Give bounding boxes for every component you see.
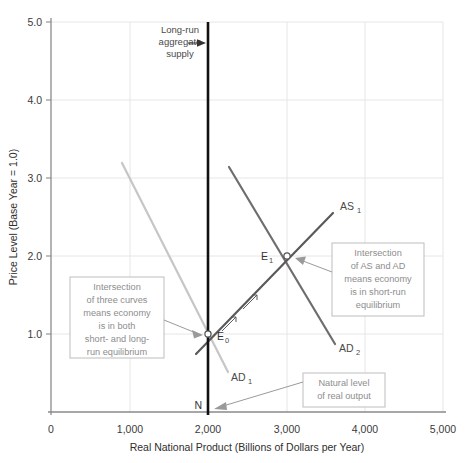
natural-output-marker-label: N (194, 399, 202, 411)
y-tick-label: 4.0 (27, 94, 42, 106)
y-axis-title: Price Level (Base Year = 1.0) (7, 149, 19, 285)
lras-annotation-arrowhead (197, 39, 206, 46)
lras-annotation-line: aggregate (159, 36, 202, 47)
short-run-callout: Intersection of AS and AD means economy … (295, 243, 424, 316)
ad1-label: AD (231, 371, 246, 383)
callout-line: Intersection (93, 282, 141, 292)
callout-line: means economy (344, 274, 412, 284)
callout-line: is in short-run (350, 287, 406, 297)
x-tick-label: 2,000 (195, 423, 221, 435)
callout-line: of real output (317, 391, 371, 401)
x-tick-label: 0 (48, 423, 54, 435)
three-curves-callout: Intersection of three curves means econo… (70, 277, 203, 358)
ad2-label: AD (339, 342, 354, 354)
e1-label: E (261, 250, 268, 262)
callout-line: Natural level (318, 378, 369, 388)
natural-level-callout-arrow-line (223, 382, 303, 406)
y-tick-label: 2.0 (27, 250, 42, 262)
natural-level-callout-arrowhead (214, 402, 227, 410)
aggregate-supply-demand-chart: 5.0 4.0 3.0 2.0 1.0 0 1,000 2,000 3,000 … (0, 0, 469, 463)
as1-label: AS (340, 200, 354, 212)
e0-label-subscript: 0 (225, 336, 229, 345)
callout-line: Intersection (354, 248, 402, 258)
x-axis-title: Real National Product (Billions of Dolla… (130, 441, 365, 453)
x-tick-label: 3,000 (274, 423, 300, 435)
callout-line: short- and long- (85, 334, 149, 344)
y-tick-label: 5.0 (27, 16, 42, 28)
ad2-label-subscript: 2 (356, 348, 360, 357)
lras-annotation-line: Long-run (161, 24, 199, 35)
chart-canvas: 5.0 4.0 3.0 2.0 1.0 0 1,000 2,000 3,000 … (0, 0, 469, 463)
short-run-callout-arrowhead (295, 257, 306, 266)
callout-line: means economy (83, 308, 151, 318)
x-tick-label: 5,000 (430, 423, 456, 435)
callout-line: is in both (99, 321, 136, 331)
as1-label-subscript: 1 (357, 206, 361, 215)
lras-annotation: Long-run aggregate supply (159, 24, 206, 59)
callout-line: of AS and AD (351, 261, 406, 271)
callout-line: run equilibrium (87, 347, 148, 357)
x-tick-label: 1,000 (117, 423, 143, 435)
lras-annotation-line: supply (166, 48, 194, 59)
x-axis-tick-labels: 0 1,000 2,000 3,000 4,000 5,000 (48, 423, 456, 435)
callout-line: equilibrium (356, 300, 401, 310)
x-tick-label: 4,000 (352, 423, 378, 435)
three-curves-callout-arrow-line (164, 320, 196, 333)
ad1-label-subscript: 1 (248, 377, 252, 386)
short-run-callout-arrow-line (303, 261, 332, 272)
y-axis-tick-labels: 5.0 4.0 3.0 2.0 1.0 (27, 16, 42, 340)
callout-line: of three curves (87, 295, 148, 305)
e1-label-subscript: 1 (269, 256, 273, 265)
y-tick-label: 3.0 (27, 172, 42, 184)
y-tick-label: 1.0 (27, 328, 42, 340)
e0-label: E (217, 330, 224, 342)
